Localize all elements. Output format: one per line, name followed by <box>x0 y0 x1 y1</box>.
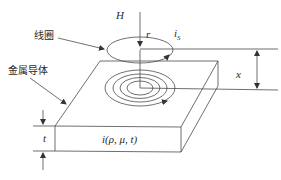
conductor-leader <box>30 78 66 104</box>
coil-label: 线圈 <box>34 31 54 41</box>
liftoff-label: x <box>236 69 241 80</box>
eddy-current-label: i(ρ, μ, t) <box>102 134 137 145</box>
field-label: H <box>116 10 124 21</box>
coil-current-label: iS <box>174 28 181 42</box>
coil-current-subscript: S <box>177 34 181 42</box>
diagram-drawing <box>0 0 281 180</box>
radius-label: r <box>146 29 150 40</box>
thickness-label: t <box>43 133 46 144</box>
eddy-current-diagram: H r iS 线圈 金属导体 x t i(ρ, μ, t) <box>0 0 281 180</box>
coil-leader <box>58 38 104 49</box>
conductor-label: 金属导体 <box>8 66 48 76</box>
